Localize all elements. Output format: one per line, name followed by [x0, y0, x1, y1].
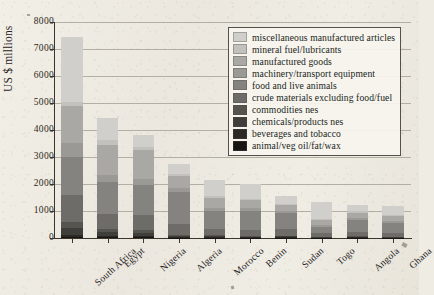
- bar-segment: [61, 106, 82, 143]
- x-axis-tick-mark: [393, 239, 394, 243]
- x-axis-tick-label: Benin: [264, 245, 289, 269]
- bar-segment: [382, 223, 403, 234]
- x-axis-tick-mark: [179, 239, 180, 243]
- x-axis-tick-mark: [143, 239, 144, 243]
- x-axis-tick-label: Morocco: [231, 245, 265, 278]
- legend-item-label: beverages and tobacco: [252, 128, 341, 139]
- bar-segment: [133, 150, 154, 179]
- bar-segment: [204, 211, 225, 228]
- bar-egypt[interactable]: [97, 118, 118, 238]
- legend-color-swatch: [233, 44, 247, 54]
- bar-segment: [275, 213, 296, 228]
- bar-segment: [240, 211, 261, 230]
- bar-segment: [97, 118, 118, 140]
- bar-togo[interactable]: [311, 202, 332, 238]
- legend-item-label: miscellaneous manufactured articles: [252, 32, 395, 43]
- bar-segment: [61, 195, 82, 221]
- bar-segment: [275, 196, 296, 204]
- legend-item-label: crude materials excluding food/fuel: [252, 92, 392, 103]
- bar-segment: [347, 220, 368, 232]
- bar-segment: [133, 185, 154, 216]
- legend-item-label: food and live animals: [252, 80, 337, 91]
- legend-item[interactable]: mineral fuel/lubricants: [233, 43, 395, 55]
- bar-segment: [275, 229, 296, 236]
- y-axis-tick-label: 4000: [34, 124, 54, 134]
- legend-color-swatch: [233, 80, 247, 90]
- bar-segment: [133, 237, 154, 238]
- bar-segment: [97, 145, 118, 176]
- bar-algeria[interactable]: [168, 164, 189, 238]
- y-axis-tick-label: 1000: [34, 205, 54, 215]
- bar-segment: [97, 175, 118, 182]
- legend-item-label: mineral fuel/lubricants: [252, 44, 341, 55]
- bar-south-africa[interactable]: [61, 37, 82, 238]
- legend-item-label: machinery/transport equipment: [252, 68, 375, 79]
- bar-segment: [97, 237, 118, 238]
- legend-item[interactable]: machinery/transport equipment: [233, 67, 395, 79]
- y-axis-tick-label: 8000: [34, 16, 54, 26]
- legend-color-swatch: [233, 56, 247, 66]
- bar-segment: [204, 198, 225, 208]
- legend-color-swatch: [233, 68, 247, 78]
- legend-color-swatch: [233, 129, 247, 139]
- bar-segment: [204, 180, 225, 196]
- legend-item-label: manufactured goods: [252, 56, 332, 67]
- legend-item-label: chemicals/products nes: [252, 116, 343, 127]
- bar-ghana[interactable]: [382, 206, 403, 238]
- y-axis-tick-label: 7000: [34, 43, 54, 53]
- bar-segment: [61, 143, 82, 157]
- y-axis-tick-label: 3000: [34, 151, 54, 161]
- bar-segment: [168, 164, 189, 174]
- legend-color-swatch: [233, 32, 247, 42]
- legend-color-swatch: [233, 117, 247, 127]
- bar-angola[interactable]: [347, 205, 368, 238]
- bar-segment: [97, 214, 118, 229]
- legend-item-label: commodities nes: [252, 104, 318, 115]
- y-axis-tick-label: 6000: [34, 70, 54, 80]
- bar-segment: [61, 37, 82, 101]
- y-axis-tick-labels: 010002000300040005000600070008000: [18, 0, 54, 295]
- bar-segment: [382, 206, 403, 215]
- bar-segment: [240, 184, 261, 199]
- bar-sudan[interactable]: [275, 196, 296, 238]
- x-axis-tick-mark: [250, 239, 251, 243]
- bar-segment: [240, 200, 261, 208]
- legend-item[interactable]: commodities nes: [233, 104, 395, 116]
- x-axis-tick-mark: [108, 239, 109, 243]
- x-axis-tick-label: Angola: [372, 245, 401, 273]
- legend-color-swatch: [233, 105, 247, 115]
- legend-color-swatch: [233, 93, 247, 103]
- legend-item[interactable]: animal/veg oil/fat/wax: [233, 140, 395, 152]
- legend-item[interactable]: crude materials excluding food/fuel: [233, 91, 395, 103]
- bar-segment: [168, 176, 189, 188]
- legend-item[interactable]: beverages and tobacco: [233, 128, 395, 140]
- bar-segment: [347, 205, 368, 212]
- legend-item-label: animal/veg oil/fat/wax: [252, 140, 341, 151]
- x-axis-tick-label: Ghana: [407, 245, 434, 271]
- bar-morocco[interactable]: [204, 180, 225, 238]
- y-axis-title: US $ millions: [2, 25, 14, 92]
- legend-color-swatch: [233, 141, 247, 151]
- x-axis-tick-mark: [322, 239, 323, 243]
- bar-segment: [311, 202, 332, 219]
- x-axis-tick-mark: [357, 239, 358, 243]
- bar-segment: [204, 229, 225, 236]
- legend-item[interactable]: miscellaneous manufactured articles: [233, 31, 395, 43]
- bar-nigeria[interactable]: [133, 135, 154, 238]
- x-axis-tick-label: Algeria: [194, 245, 224, 274]
- bar-segment: [168, 192, 189, 224]
- x-axis-tick-label: Sudan: [300, 245, 326, 270]
- bar-segment: [311, 227, 332, 234]
- x-axis-tick-mark: [72, 239, 73, 243]
- legend-item[interactable]: food and live animals: [233, 79, 395, 91]
- bar-segment: [168, 224, 189, 235]
- x-axis-tick-mark: [286, 239, 287, 243]
- legend-item[interactable]: chemicals/products nes: [233, 116, 395, 128]
- legend-item[interactable]: manufactured goods: [233, 55, 395, 67]
- x-axis-tick-mark: [215, 239, 216, 243]
- x-axis-tick-label: Nigeria: [158, 245, 188, 274]
- bar-segment: [133, 215, 154, 230]
- bar-segment: [97, 182, 118, 214]
- bar-benin[interactable]: [240, 184, 261, 238]
